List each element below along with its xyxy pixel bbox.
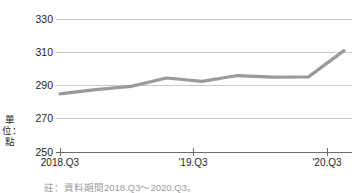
data-series-line [60, 51, 344, 94]
line-chart-figure: 單位：點 330 310 290 270 250 2018.Q3 '19.Q3 … [0, 0, 356, 193]
x-axis-tick-label-2019q3: '19.Q3 [178, 158, 207, 168]
x-axis-tick-label-2018q3: 2018.Q3 [41, 158, 79, 168]
chart-footnote: 註：資料期間2018.Q3～2020.Q3。 [44, 183, 197, 193]
x-axis-tick-label-2020q3: '20.Q3 [312, 158, 341, 168]
gridlines [56, 19, 352, 119]
